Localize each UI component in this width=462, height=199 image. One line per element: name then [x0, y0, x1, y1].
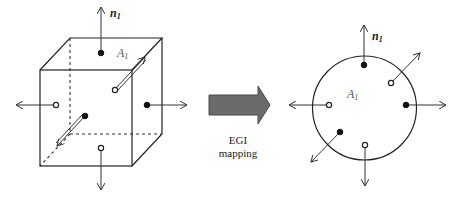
cube-area-label: A1: [116, 46, 128, 61]
sphere-arrow-upright: [391, 53, 420, 83]
filled-dot-right: [144, 102, 150, 108]
sphere-open-dot-upright: [388, 80, 393, 85]
sphere-arrow-downleft: [311, 132, 340, 162]
cube-hidden-edge: [40, 134, 70, 166]
sphere-normals: [289, 25, 446, 186]
cube-normals: [16, 7, 187, 190]
big-arrow-icon: [209, 86, 270, 124]
cube-normal-label: n1: [110, 6, 121, 21]
sphere-filled-dot-right: [403, 102, 409, 108]
sphere-filled-dot-top: [361, 62, 367, 68]
mapping-caption-line1: EGI: [229, 134, 248, 146]
sphere-area-label: A1: [346, 87, 358, 102]
open-dot-bottom: [98, 145, 103, 150]
normal-arrow-front: [57, 116, 85, 146]
sphere-filled-dot-downleft: [337, 129, 343, 135]
sphere-open-dot-bottom: [362, 142, 367, 147]
filled-dot-top: [98, 50, 104, 56]
open-dot-left: [53, 102, 58, 107]
sphere-normal-label: n1: [372, 29, 383, 44]
normal-arrow-front-double: [56, 115, 82, 143]
mapping-caption-line2: mapping: [219, 147, 258, 159]
normal-arrow-back: [115, 57, 145, 89]
egi-diagram: n1 A1 EGI mapping n1 A1: [0, 0, 462, 199]
filled-dot-front: [82, 113, 88, 119]
egi-mapping-arrow: [209, 86, 270, 124]
sphere-open-dot-left: [326, 102, 331, 107]
open-dot-back: [112, 87, 117, 92]
